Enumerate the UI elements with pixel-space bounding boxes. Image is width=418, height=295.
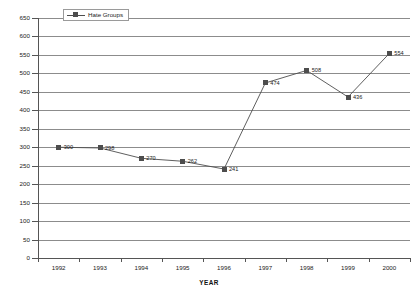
x-axis-title: YEAR: [0, 279, 418, 286]
data-point-label: 241: [229, 167, 238, 173]
data-point-label: 508: [312, 68, 321, 74]
hate-groups-line-chart: 050100150200250300350400450500550600650 …: [0, 0, 418, 295]
data-point-marker: [304, 68, 309, 73]
data-point-label: 298: [105, 146, 114, 152]
data-point-label: 262: [188, 159, 197, 165]
data-point-marker: [139, 156, 144, 161]
data-point-label: 270: [146, 156, 155, 162]
legend-marker-icon: [67, 12, 85, 18]
data-point-marker: [222, 167, 227, 172]
data-point-marker: [98, 145, 103, 150]
data-point-label: 300: [64, 145, 73, 151]
chart-legend: Hate Groups: [63, 9, 129, 21]
data-point-label: 436: [353, 95, 362, 101]
data-point-marker: [263, 80, 268, 85]
data-point-marker: [346, 95, 351, 100]
data-point-marker: [180, 159, 185, 164]
legend-label-hate-groups: Hate Groups: [88, 12, 123, 18]
data-point-marker: [387, 51, 392, 56]
data-point-label: 554: [394, 51, 403, 57]
data-point-label: 474: [270, 81, 279, 87]
data-point-marker: [56, 145, 61, 150]
